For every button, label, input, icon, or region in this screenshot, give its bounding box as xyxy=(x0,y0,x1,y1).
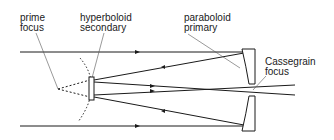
virtual-ray-bottom xyxy=(58,89,90,97)
primary-leader xyxy=(188,34,240,68)
hyperboloid-secondary-mirror xyxy=(89,77,94,100)
reflected-ray-bottom xyxy=(94,97,244,125)
paraboloid-primary-mirror-bottom xyxy=(242,96,255,131)
arrow-icon xyxy=(150,84,155,88)
reflected-ray-top xyxy=(94,53,244,80)
arrow-icon xyxy=(161,65,165,69)
cassegrain-diagram xyxy=(0,0,334,140)
prime-focus-leader xyxy=(36,33,58,89)
arrow-icon xyxy=(135,124,140,128)
virtual-ray-top xyxy=(58,80,90,89)
arrow-icon xyxy=(135,50,140,54)
secondary-leader xyxy=(92,33,104,78)
paraboloid-primary-mirror-top xyxy=(242,49,255,84)
